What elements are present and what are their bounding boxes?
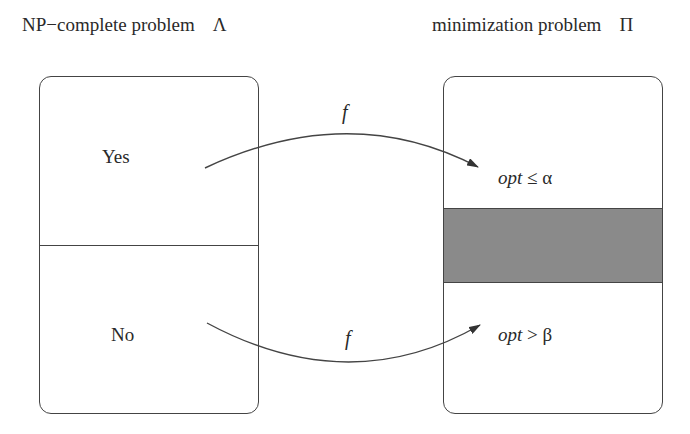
yes-to-opt-le-arrow <box>205 134 478 168</box>
reduction-f-label-bottom: f <box>345 327 351 350</box>
no-to-opt-gt-arrow <box>207 323 480 362</box>
reduction-f-label-top: f <box>342 101 348 124</box>
mapping-arrows <box>0 0 690 434</box>
